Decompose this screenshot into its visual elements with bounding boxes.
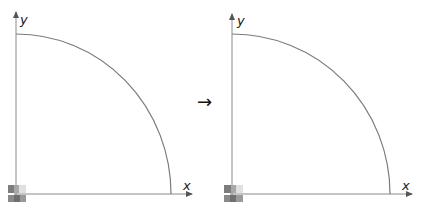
quarter-arc [232, 34, 390, 194]
right-panel: y x [224, 13, 412, 202]
y-axis-label: y [19, 12, 28, 27]
x-axis-label: x [401, 178, 410, 193]
quarter-arc [16, 34, 171, 194]
transition-arrow: → [197, 91, 212, 112]
y-axis-label: y [236, 13, 245, 28]
x-axis-label: x [182, 178, 191, 193]
diagram-canvas: y x → y x [0, 0, 422, 209]
left-panel: y x [8, 12, 192, 202]
